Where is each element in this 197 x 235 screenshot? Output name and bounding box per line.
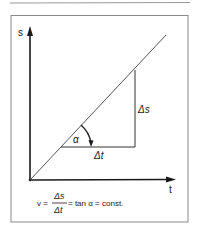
x-axis-arrow-icon <box>166 177 176 183</box>
y-axis-label: s <box>18 27 23 38</box>
formula-lhs: v = <box>37 199 48 208</box>
velocity-diagram: s t Δs Δt α v = Δs Δt = tan α = const. <box>0 0 197 235</box>
top-rule <box>10 3 190 4</box>
formula-denominator: Δt <box>53 205 63 215</box>
figure-frame <box>11 16 188 223</box>
formula-rhs: = tan α = const. <box>68 199 123 208</box>
delta-t-label: Δt <box>93 150 105 161</box>
y-axis-arrow-icon <box>27 26 33 36</box>
angle-arrow-icon <box>89 140 94 147</box>
x-axis <box>30 180 168 181</box>
delta-s-label: Δs <box>137 104 150 115</box>
x-axis-label: t <box>169 184 172 195</box>
formula-numerator: Δs <box>53 191 65 201</box>
angle-label: α <box>73 134 79 145</box>
